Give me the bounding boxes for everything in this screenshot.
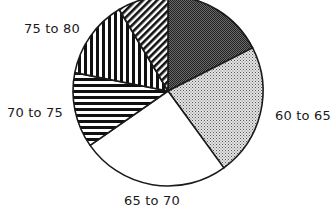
label-65-to-70: 65 to 70	[124, 194, 180, 208]
label-70-to-75: 70 to 75	[7, 106, 63, 120]
label-55-to-60: 55 to 60	[226, 0, 282, 3]
label-60-to-65: 60 to 65	[275, 109, 331, 123]
pie-slices	[73, 0, 263, 186]
label-75-to-80: 75 to 80	[24, 22, 80, 36]
